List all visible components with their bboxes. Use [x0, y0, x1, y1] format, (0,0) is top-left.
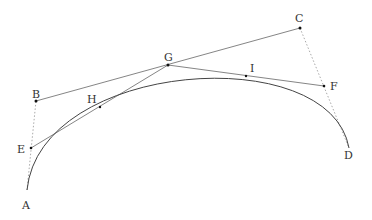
- label-D: D: [344, 150, 353, 161]
- label-A: A: [22, 200, 30, 211]
- label-F: F: [330, 81, 338, 92]
- point-markers: [30, 27, 326, 150]
- label-H: H: [87, 94, 97, 105]
- diagram-canvas: [0, 0, 372, 220]
- bezier-curve: [27, 78, 349, 190]
- dotted-line-C-D: [300, 28, 349, 148]
- label-I: I: [250, 63, 254, 74]
- point-C: [299, 27, 302, 30]
- point-F: [323, 85, 326, 88]
- label-B: B: [32, 89, 40, 100]
- bezier-diagram: A B C D E F G H I: [0, 0, 372, 220]
- point-H: [99, 106, 101, 108]
- point-E: [30, 147, 33, 150]
- label-E: E: [17, 144, 25, 155]
- label-C: C: [295, 13, 303, 24]
- point-I: [245, 75, 247, 77]
- label-G: G: [164, 52, 173, 63]
